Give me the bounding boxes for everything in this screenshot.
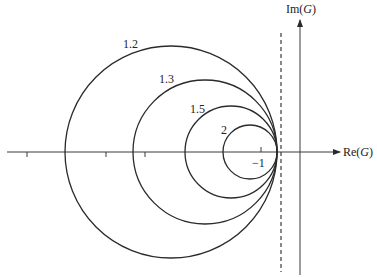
diagram-canvas: 1.2 1.3 1.5 2 −1 Re(G) Im(G): [0, 0, 377, 277]
circle-label-2: 2: [221, 123, 227, 137]
circle-label-1-5: 1.5: [190, 102, 205, 116]
real-axis-label: Re(G): [343, 145, 373, 159]
imaginary-axis-label: Im(G): [286, 2, 316, 16]
circle-label-1-3: 1.3: [159, 72, 174, 86]
minus-one-label: −1: [252, 156, 265, 170]
circle-label-1-2: 1.2: [123, 37, 138, 51]
